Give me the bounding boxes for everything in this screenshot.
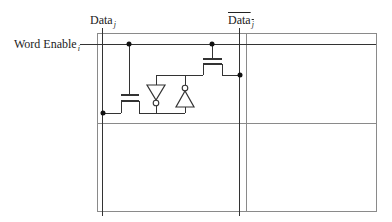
inverter-down-triangle-icon bbox=[147, 85, 165, 100]
junction-dot-icon bbox=[127, 42, 132, 47]
junction-dot-icon bbox=[101, 111, 106, 116]
data-bar-label: Dataj bbox=[228, 14, 254, 29]
data-label-subscript: j bbox=[114, 20, 116, 29]
junction-dot-icon bbox=[210, 42, 215, 47]
word-enable-label-subscript: i bbox=[78, 44, 80, 53]
word-enable-label: Word Enablei bbox=[14, 38, 80, 53]
inverter-up-bubble-icon bbox=[182, 85, 188, 91]
data-label: Dataj bbox=[90, 14, 116, 29]
inverter-up-triangle-icon bbox=[176, 91, 194, 107]
data-bar-label-text: Dataj bbox=[228, 13, 254, 27]
word-enable-label-text: Word Enable bbox=[14, 37, 77, 51]
junction-dot-icon bbox=[238, 73, 243, 78]
cell-outer-border bbox=[97, 33, 376, 211]
inverter-down-bubble-icon bbox=[153, 100, 159, 106]
data-bar-label-subscript: j bbox=[252, 20, 254, 29]
data-bar-label-word: Data bbox=[228, 13, 251, 27]
sram-cell-diagram bbox=[0, 0, 392, 222]
data-label-text: Data bbox=[90, 13, 113, 27]
